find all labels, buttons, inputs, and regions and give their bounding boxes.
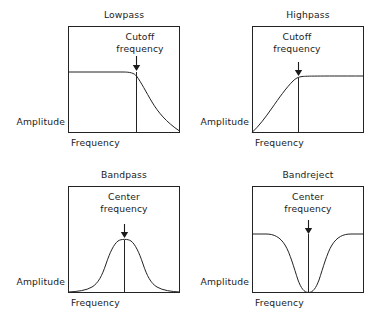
x-axis-label-bandpass: Frequency (71, 297, 161, 308)
response-curve-lowpass (69, 72, 180, 131)
curve-highpass (252, 26, 364, 133)
panel-title-highpass: Highpass (252, 9, 364, 20)
y-axis-label-highpass: Amplitude (184, 116, 249, 127)
curve-bandpass (68, 186, 180, 293)
x-axis-label-highpass: Frequency (255, 137, 345, 148)
panel-title-lowpass: Lowpass (68, 9, 180, 20)
panel-title-bandreject: Bandreject (252, 169, 364, 180)
response-curve-highpass (253, 76, 364, 132)
y-axis-label-bandreject: Amplitude (184, 276, 249, 287)
x-axis-label-lowpass: Frequency (71, 137, 161, 148)
y-axis-label-lowpass: Amplitude (0, 116, 65, 127)
annotation-arrow-head (133, 65, 140, 71)
curve-bandreject (252, 186, 364, 293)
curve-lowpass (68, 26, 180, 133)
annotation-arrow-head (121, 232, 128, 238)
y-axis-label-bandpass: Amplitude (0, 276, 65, 287)
panel-title-bandpass: Bandpass (68, 169, 180, 180)
filter-response-figure: Lowpass Cutoff frequency Amplitude Frequ… (0, 0, 376, 320)
annotation-arrow-head (295, 70, 302, 76)
x-axis-label-bandreject: Frequency (255, 297, 345, 308)
annotation-arrow-head (305, 228, 312, 234)
